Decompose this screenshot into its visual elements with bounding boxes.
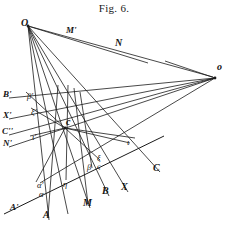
point-label-M: M <box>83 198 92 208</box>
point-label-C-double-prime: C'' <box>2 127 13 136</box>
O-to-N-line <box>28 26 148 63</box>
point-label-N: N <box>115 38 122 48</box>
o-to-C-double-prime <box>9 78 215 135</box>
point-label-o: o <box>217 62 222 72</box>
point-label-A-prime: A' <box>10 203 19 212</box>
greek-label-iota: ι <box>127 138 129 147</box>
greek-label-iota-prime: ι′ <box>32 133 36 142</box>
greek-label-alpha: α <box>39 190 43 199</box>
point-label-B-prime: B' <box>3 90 12 99</box>
greek-label-xi-prime: ξ′ <box>31 108 37 117</box>
point-label-X-prime: X' <box>3 111 12 120</box>
point-label-A: A <box>43 210 50 220</box>
vertical-through-M <box>74 88 88 204</box>
greek-label-beta-prime: β′ <box>27 92 33 101</box>
point-label-C: C <box>153 163 160 173</box>
point-label-B: B <box>102 186 109 196</box>
greek-label-eta: η <box>63 180 67 189</box>
figure-container: Fig. 6. OocM'NB'X'C''N'A'AMBXC β′ξ′ι′α′α… <box>0 0 228 226</box>
point-label-N-prime: N' <box>3 139 12 148</box>
greek-label-sigma-final: ς <box>97 162 100 171</box>
point-label-c: c <box>66 117 70 127</box>
vertical-through-eta <box>66 85 68 180</box>
point-label-X: X <box>121 182 128 192</box>
vertex-o <box>214 77 217 80</box>
greek-label-beta: β <box>87 163 91 172</box>
O-to-M-prime-N-right <box>28 26 213 77</box>
vertex-c <box>64 127 67 130</box>
vertical-through-alpha-to-A <box>48 85 58 216</box>
o-to-upper-left-short <box>165 61 215 78</box>
point-label-O: O <box>21 18 28 28</box>
point-label-M-prime: M' <box>66 26 77 35</box>
